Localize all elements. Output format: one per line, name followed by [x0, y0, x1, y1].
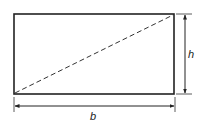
base-label: b: [90, 110, 96, 122]
rectangle-diagram: h b: [0, 0, 206, 123]
height-label: h: [188, 48, 194, 60]
dashed-diagonal: [15, 15, 173, 93]
